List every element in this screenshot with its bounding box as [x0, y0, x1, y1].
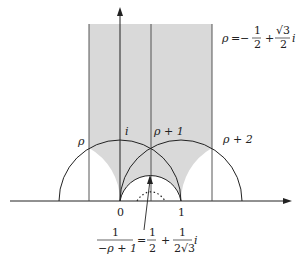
svg-text:1: 1 [254, 24, 261, 37]
y-axis-arrow-icon [117, 7, 123, 16]
svg-text:2√3: 2√3 [174, 242, 195, 255]
tick-label-one: 1 [178, 206, 185, 219]
svg-text:+: + [161, 234, 170, 247]
svg-text:−: − [240, 32, 249, 45]
svg-text:1: 1 [149, 226, 156, 239]
svg-text:1: 1 [179, 226, 186, 239]
annotation-formula: 1 −ρ + 1 = 1 2 + 1 2√3 i [97, 226, 198, 255]
svg-text:1: 1 [112, 226, 119, 239]
label-rho-plus-2: ρ + 2 [222, 133, 253, 146]
label-rho: ρ [77, 135, 85, 148]
pointer-line [144, 180, 150, 230]
label-rho-plus-1: ρ + 1 [153, 125, 184, 138]
svg-text:i: i [292, 32, 296, 45]
svg-text:2: 2 [149, 242, 156, 255]
svg-text:=: = [231, 32, 240, 45]
tick-label-zero: 0 [117, 206, 124, 219]
svg-text:2: 2 [280, 38, 287, 51]
shaded-region [89, 24, 212, 201]
svg-text:i: i [194, 234, 198, 247]
svg-text:−ρ + 1: −ρ + 1 [98, 242, 137, 255]
fundamental-domain-diagram: ρ i ρ + 1 ρ + 2 0 1 ρ = − 1 2 + √3 2 i 1… [0, 0, 302, 262]
svg-text:√3: √3 [276, 24, 290, 37]
svg-text:2: 2 [254, 38, 261, 51]
svg-text:+: + [265, 32, 274, 45]
svg-text:=: = [137, 234, 146, 247]
svg-text:ρ: ρ [221, 32, 229, 45]
rho-definition: ρ = − 1 2 + √3 2 i [221, 24, 296, 51]
x-axis-arrow-icon [283, 198, 292, 204]
label-i: i [125, 125, 129, 138]
pointer-arrow-icon [147, 175, 153, 184]
